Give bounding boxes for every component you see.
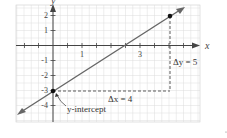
x-tick-1: 1 — [80, 50, 84, 59]
y-intercept-point — [51, 89, 56, 94]
y-tick-minus-3: -3 — [41, 86, 48, 95]
y-tick-1: 1 — [44, 26, 48, 35]
y-intercept-label: y-intercept — [67, 104, 106, 114]
y-tick-minus-1: -1 — [41, 56, 48, 65]
point-4-2 — [168, 14, 173, 19]
stray-mark — [225, 131, 226, 132]
y-axis-label: y — [50, 0, 56, 6]
delta-y-label: Δy = 5 — [173, 57, 198, 67]
x-axis-label: x — [204, 40, 210, 51]
x-tick-3: 3 — [138, 50, 142, 59]
y-tick-minus-2: -2 — [41, 71, 48, 80]
line-graph: 1 3 2 1 -1 -2 -3 -4 x y y-intercept Δx =… — [0, 0, 227, 138]
y-tick-minus-4: -4 — [41, 101, 48, 110]
delta-x-label: Δx = 4 — [108, 94, 133, 104]
y-tick-2: 2 — [44, 11, 48, 20]
